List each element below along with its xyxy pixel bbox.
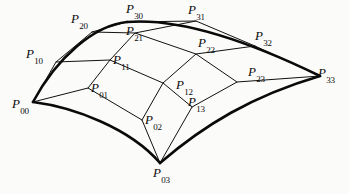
label-P20: P20 <box>71 12 88 25</box>
label-P01: P01 <box>91 81 108 94</box>
boundary-curve-top-right <box>127 21 320 76</box>
label-P30: P30 <box>126 2 143 15</box>
label-P10: P10 <box>26 47 43 60</box>
bezier-surface-figure: P00 P10 P20 P30 P01 P11 P21 P31 P02 P12 … <box>0 0 349 194</box>
label-P31: P31 <box>188 3 205 16</box>
label-P32: P32 <box>255 29 272 42</box>
label-P00: P00 <box>12 97 29 110</box>
label-P02: P02 <box>145 113 162 126</box>
boundary-curve-left-bottom <box>33 102 160 163</box>
net-row-0 <box>33 88 160 163</box>
label-P13: P13 <box>188 95 205 108</box>
label-P21: P21 <box>126 24 143 37</box>
label-P12: P12 <box>176 78 193 91</box>
label-P11: P11 <box>113 53 129 66</box>
patch-boundary <box>33 21 320 163</box>
label-P03: P03 <box>153 166 170 179</box>
label-P23: P23 <box>248 65 265 78</box>
label-P33: P33 <box>318 66 335 79</box>
label-P22: P22 <box>198 36 215 49</box>
surface-canvas <box>0 0 349 194</box>
